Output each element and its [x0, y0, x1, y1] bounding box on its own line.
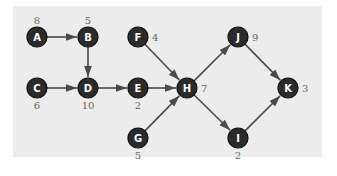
node-duration: 3 [302, 83, 308, 94]
node-duration: 6 [34, 100, 40, 111]
node-duration: 5 [85, 15, 91, 26]
edge-J-K-arrow [245, 44, 280, 80]
node-a: A8 [27, 15, 47, 48]
edge-F-H-arrow [145, 44, 179, 80]
node-label: B [84, 32, 92, 43]
node-label: J [235, 32, 240, 43]
edge-I-K-arrow [245, 96, 280, 131]
edge-G-H-arrow [145, 96, 179, 131]
node-c: C6 [27, 78, 47, 111]
node-duration: 4 [152, 32, 158, 43]
node-f: F4 [128, 27, 158, 47]
node-g: G5 [128, 128, 148, 161]
node-label: D [84, 83, 92, 94]
node-e: E2 [128, 78, 148, 111]
node-label: C [33, 83, 40, 94]
node-duration: 2 [135, 100, 141, 111]
node-label: E [135, 83, 142, 94]
node-duration: 7 [201, 83, 207, 94]
node-label: F [135, 32, 142, 43]
node-j: J9 [228, 27, 258, 47]
node-k: K3 [278, 78, 308, 98]
node-duration: 2 [235, 150, 241, 161]
node-label: K [284, 83, 293, 94]
node-label: G [134, 133, 142, 144]
node-duration: 8 [34, 15, 40, 26]
node-label: I [236, 133, 240, 144]
node-b: B5 [78, 15, 98, 48]
node-label: A [33, 32, 41, 43]
node-d: D10 [78, 78, 98, 111]
node-label: H [183, 83, 191, 94]
node-duration: 9 [252, 32, 258, 43]
node-h: H7 [177, 78, 207, 98]
node-i: I2 [228, 128, 248, 161]
node-duration: 10 [82, 100, 95, 111]
node-duration: 5 [135, 150, 141, 161]
edge-H-I-arrow [194, 95, 230, 130]
edge-H-J-arrow [194, 45, 230, 81]
network-diagram: A8B5C6D10E2F4G5H7J9I2K3 [0, 0, 337, 176]
